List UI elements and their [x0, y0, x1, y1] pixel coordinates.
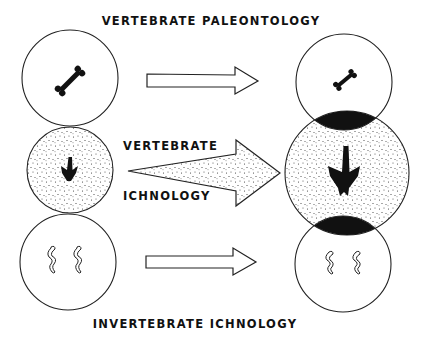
top-label: VERTEBRATE PALEONTOLOGY — [102, 14, 321, 28]
arrow-invertebrate-ichnology — [146, 248, 256, 275]
middle-label-ichnology: ICHNOLOGY — [123, 189, 211, 203]
ichnology-diagram: VERTEBRATE PALEONTOLOGY — [0, 0, 422, 339]
bone-icon — [53, 64, 86, 97]
burrow-icon — [74, 246, 82, 273]
middle-label-vertebrate: VERTEBRATE — [123, 139, 218, 153]
arrow-vertebrate-paleontology — [147, 67, 258, 94]
bone-icon — [332, 68, 358, 92]
left-invertebrate-ichnology-circle — [20, 214, 116, 310]
right-column — [285, 34, 409, 312]
burrow-icon — [353, 251, 360, 274]
bottom-label: INVERTEBRATE ICHNOLOGY — [93, 317, 298, 331]
burrow-icon — [326, 251, 333, 274]
left-column — [20, 30, 118, 310]
burrow-icon — [48, 246, 56, 273]
